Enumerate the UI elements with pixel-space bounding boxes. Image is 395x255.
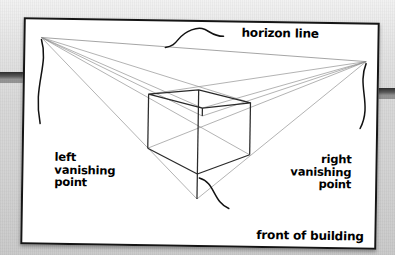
label-right-vanishing-point: right vanishing point bbox=[290, 152, 352, 190]
label-horizon-line: horizon line bbox=[241, 27, 318, 41]
leader-right-vp bbox=[360, 64, 366, 129]
horizon-line bbox=[41, 37, 366, 61]
leader-horizon bbox=[165, 28, 223, 49]
label-front-of-building: front of building bbox=[256, 229, 363, 243]
building-box-outline bbox=[147, 89, 250, 175]
illustration-card: horizon line left vanishing point right … bbox=[20, 17, 380, 250]
label-left-vanishing-point: left vanishing point bbox=[54, 151, 116, 189]
leader-front-of-building bbox=[199, 178, 229, 208]
illustration-canvas: horizon line left vanishing point right … bbox=[22, 19, 377, 248]
leader-left-vp bbox=[38, 39, 44, 123]
perspective-diagram-svg bbox=[22, 19, 377, 248]
illustration-stage: horizon line left vanishing point right … bbox=[0, 0, 395, 255]
